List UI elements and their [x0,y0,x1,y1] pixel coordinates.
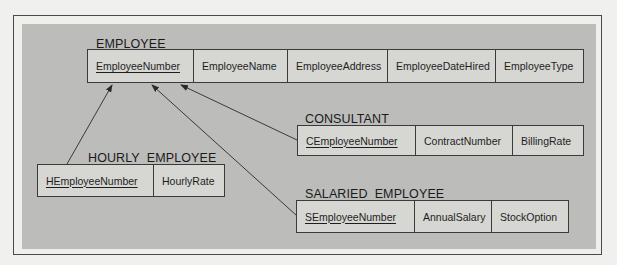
arrow-consultant-to-employee [181,85,297,140]
arrow-hourly-to-employee [67,85,112,164]
arrow-salaried-to-employee [152,85,296,215]
relationship-arrows [0,0,617,265]
